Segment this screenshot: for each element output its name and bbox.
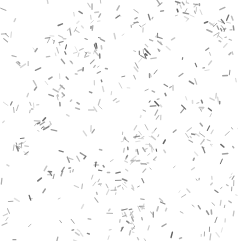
speck-mark (109, 209, 110, 210)
speck-mark (192, 134, 195, 135)
speck-mark (77, 103, 79, 104)
speck-mark (233, 211, 234, 216)
speck-mark (11, 32, 12, 37)
speck-mark (100, 150, 102, 151)
speck-mark (166, 208, 167, 211)
speck-mark (96, 43, 97, 48)
speck-mark (149, 144, 150, 147)
speck-mark (232, 52, 233, 55)
speck-mark (141, 164, 146, 165)
speck-mark (122, 227, 124, 228)
speck-mark (220, 200, 221, 205)
speck-mark (210, 234, 211, 240)
speck-mark (175, 15, 177, 16)
speck-mark (151, 58, 156, 59)
speck-mark (82, 184, 83, 189)
speck-mark (159, 50, 160, 52)
speck-mark (88, 219, 90, 220)
speck-mark (223, 28, 225, 29)
speck-mark (87, 233, 89, 234)
speck-mark (97, 192, 98, 194)
speck-mark (70, 100, 71, 101)
speck-mark (233, 26, 234, 30)
speck-mark (136, 141, 140, 142)
speck-mark (219, 41, 221, 42)
speck-mark (98, 21, 100, 22)
speck-mark (38, 131, 39, 132)
speck-mark (95, 162, 96, 167)
speck-mark (140, 116, 141, 118)
speck-mark (190, 136, 191, 137)
speck-mark (37, 123, 39, 124)
speckle-texture (0, 0, 238, 241)
speck-mark (90, 92, 92, 93)
speck-mark (222, 21, 223, 22)
speck-mark (229, 70, 230, 75)
speck-mark (150, 106, 155, 107)
speck-mark (7, 165, 9, 166)
speck-mark (177, 9, 178, 11)
speck-mark (197, 103, 199, 104)
speck-mark (193, 158, 194, 160)
speck-mark (30, 110, 31, 113)
speck-mark (151, 146, 152, 151)
speck-mark (103, 166, 104, 167)
speck-mark (101, 80, 102, 82)
speck-mark (157, 207, 158, 211)
speck-mark (211, 183, 212, 185)
speck-mark (72, 230, 73, 231)
speck-mark (152, 17, 153, 18)
speck-mark (1, 178, 2, 184)
speck-mark (73, 169, 74, 171)
speck-mark (124, 148, 125, 152)
speck-mark (138, 238, 139, 240)
speck-mark (116, 172, 120, 173)
speck-mark (233, 147, 234, 148)
speck-mark (151, 74, 152, 76)
speck-mark (236, 78, 237, 82)
speck-mark (223, 153, 228, 154)
speck-mark (99, 170, 102, 171)
speck-mark (201, 100, 202, 103)
speck-mark (180, 238, 182, 239)
speck-mark (157, 99, 159, 100)
speck-mark (98, 38, 100, 39)
speck-mark (236, 195, 237, 196)
speck-mark (25, 146, 29, 147)
speck-mark (160, 105, 161, 107)
speck-mark (92, 26, 93, 31)
speck-mark (165, 93, 166, 95)
speck-mark (145, 54, 147, 55)
speck-mark (45, 38, 50, 39)
